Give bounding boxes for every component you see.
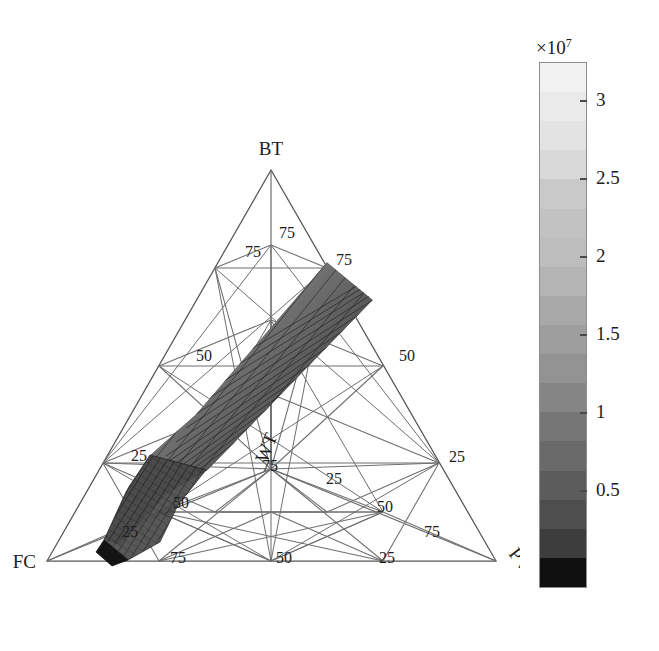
colorbar-band: [540, 558, 586, 587]
colorbar-exponent-prefix: ×10: [536, 37, 566, 58]
quaternary-diagram-svg: BT FC PV WT 75 75 75 50 50 25 25 25 75 5…: [0, 0, 520, 651]
colorbar-panel: ×107 3 2.5 2 1.5 1 0.5: [520, 0, 659, 651]
tick-label: 50: [173, 494, 189, 511]
colorbar-tick-label: 2: [596, 245, 606, 267]
vertex-label-pv: PV: [505, 544, 520, 576]
colorbar-band: [540, 121, 586, 150]
tick-label: 50: [196, 347, 212, 364]
colorbar-band: [540, 529, 586, 558]
tick-label: 25: [379, 549, 395, 566]
tick-label: 25: [131, 447, 147, 464]
colorbar-band: [540, 238, 586, 267]
colorbar-band: [540, 209, 586, 238]
colorbar-band: [540, 383, 586, 412]
tick-label: 75: [279, 224, 295, 241]
tick-label: 25: [122, 523, 138, 540]
colorbar-tick-mark: [580, 334, 587, 336]
colorbar-tick-label: 0.5: [596, 479, 620, 501]
colorbar-band: [540, 63, 586, 92]
vertex-label-fc: FC: [13, 551, 36, 572]
tick-label: 50: [377, 498, 393, 515]
colorbar-exponent-label: ×107: [536, 36, 572, 59]
tick-label: 75: [245, 243, 261, 260]
colorbar-tick-mark: [580, 490, 587, 492]
colorbar-tick-mark: [580, 178, 587, 180]
colorbar-tick-label: 3: [596, 89, 606, 111]
colorbar-band: [540, 500, 586, 529]
tick-label: 25: [449, 448, 465, 465]
colorbar-tick-label: 1.5: [596, 323, 620, 345]
colorbar-band: [540, 296, 586, 325]
colorbar-tick-mark: [580, 100, 587, 102]
tick-label: 25: [326, 470, 342, 487]
colorbar-band: [540, 441, 586, 470]
colorbar-band: [540, 471, 586, 500]
colorbar-tick-mark: [580, 256, 587, 258]
colorbar-tick-label: 1: [596, 401, 606, 423]
tick-label: 75: [170, 549, 186, 566]
colorbar-band: [540, 354, 586, 383]
colorbar-exponent-power: 7: [566, 36, 572, 50]
tick-label: 50: [399, 347, 415, 364]
vertex-label-bt: BT: [259, 138, 284, 159]
quaternary-diagram-panel: BT FC PV WT 75 75 75 50 50 25 25 25 75 5…: [0, 0, 520, 651]
colorbar-tick-label: 2.5: [596, 167, 620, 189]
tick-label: 75: [262, 457, 278, 474]
surface-mesh-tail: [96, 455, 206, 566]
colorbar-band: [540, 325, 586, 354]
tick-label: 75: [424, 523, 440, 540]
colorbar-tick-mark: [580, 412, 587, 414]
figure-root: BT FC PV WT 75 75 75 50 50 25 25 25 75 5…: [0, 0, 659, 651]
colorbar-gradient[interactable]: [539, 62, 587, 588]
colorbar-band: [540, 92, 586, 121]
colorbar-band: [540, 150, 586, 179]
tick-label: 75: [336, 251, 352, 268]
colorbar-band: [540, 179, 586, 208]
tick-label: 50: [276, 549, 292, 566]
colorbar-band: [540, 412, 586, 441]
colorbar-band: [540, 267, 586, 296]
